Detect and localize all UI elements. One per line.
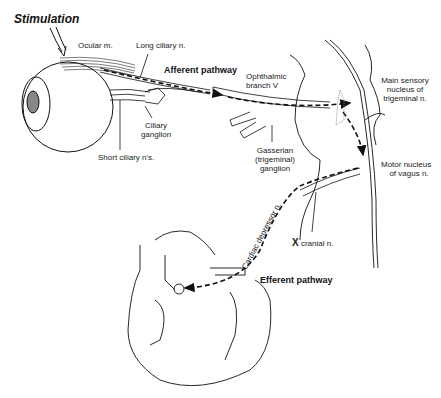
efferent-arrow xyxy=(185,168,358,288)
label-gasserian-line1: Gasserian xyxy=(250,146,300,155)
afferent-arrow-segment-2 xyxy=(228,97,350,105)
label-main-sensory-line3: trigeminal n. xyxy=(370,94,440,103)
stimulation-arrow-icon xyxy=(50,27,66,56)
brainstem-icon xyxy=(290,40,385,268)
label-motor-nucleus-line2: of vagus n. xyxy=(380,169,438,178)
label-motor-nucleus-line1: Motor nucleus xyxy=(381,160,431,169)
diagram-artwork xyxy=(0,0,441,398)
label-afferent-pathway: Afferent pathway xyxy=(164,65,237,75)
ophthalmic-nerve xyxy=(213,87,330,142)
oculocardiac-reflex-diagram: Stimulation Ocular m. Long ciliary n. Af… xyxy=(0,0,441,398)
vagus-nerve xyxy=(300,168,360,232)
label-x-cranial-nerve: X cranial n. xyxy=(292,237,333,248)
label-main-sensory-line1: Main sensory xyxy=(370,76,440,85)
label-ophthalmic-line2: branch V xyxy=(246,81,278,90)
label-ocular-muscle: Ocular m. xyxy=(78,41,113,50)
label-ciliary-ganglion-line2: ganglion xyxy=(136,130,176,139)
label-gasserian-line3: ganglion xyxy=(250,164,300,173)
label-ciliary-ganglion-line1: Ciliary xyxy=(136,121,176,130)
afferent-arrow-segment-3 xyxy=(343,112,363,155)
label-x-cranial-suffix: cranial n. xyxy=(301,239,333,248)
diagram-title: Stimulation xyxy=(14,12,79,26)
label-short-ciliary-nerves: Short ciliary n's. xyxy=(98,153,154,162)
label-gasserian-line2: (trigeminal) xyxy=(250,155,300,164)
ciliary-ganglion-icon xyxy=(110,88,200,150)
label-x-cranial-prefix: X xyxy=(292,237,299,248)
eye-icon xyxy=(22,62,113,152)
label-ophthalmic-line1: Ophthalmic xyxy=(246,72,286,81)
label-efferent-pathway: Efferent pathway xyxy=(260,275,333,285)
label-main-sensory-line2: nucleus of xyxy=(370,85,440,94)
label-long-ciliary-nerve: Long ciliary n. xyxy=(136,41,185,50)
